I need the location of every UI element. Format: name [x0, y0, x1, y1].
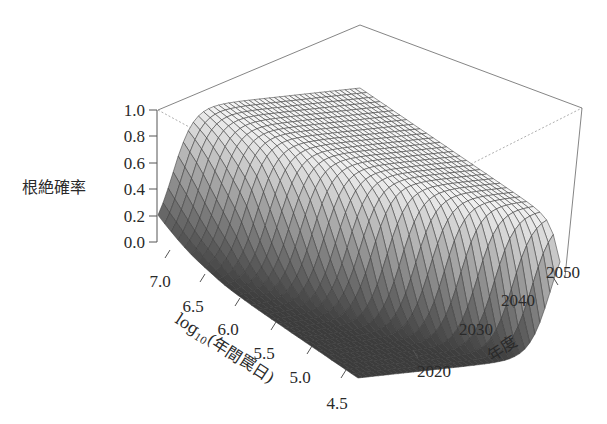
z-tick-0.2: 0.2 [124, 207, 145, 226]
z-tick-0.8: 0.8 [124, 127, 145, 146]
x-tick-5.0: 5.0 [289, 368, 310, 387]
surface-plot: 1.0 0.8 0.6 0.4 0.2 0.0 根絶確率 7.0 6.5 6.0… [0, 0, 607, 424]
x-tick-4.5: 4.5 [326, 394, 347, 413]
z-axis-title: 根絶確率 [22, 178, 86, 197]
z-axis: 1.0 0.8 0.6 0.4 0.2 0.0 根絶確率 [22, 101, 157, 252]
y-tick-2030: 2030 [459, 320, 493, 339]
z-tick-0.4: 0.4 [124, 180, 146, 199]
y-tick-2020: 2020 [417, 362, 451, 381]
y-tick-2050: 2050 [546, 263, 580, 282]
z-tick-1.0: 1.0 [124, 101, 145, 120]
z-tick-0.0: 0.0 [124, 233, 145, 252]
z-tick-0.6: 0.6 [124, 154, 145, 173]
x-tick-7.0: 7.0 [149, 272, 170, 291]
y-tick-2040: 2040 [501, 291, 535, 310]
